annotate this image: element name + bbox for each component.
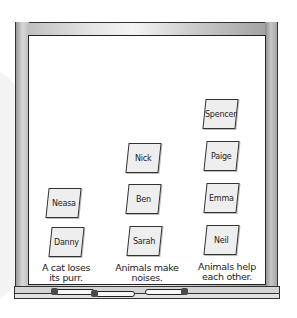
note-label: Neasa bbox=[52, 199, 76, 208]
sticky-note-paige[interactable]: Paige bbox=[203, 141, 239, 171]
column-label-cat-loses-purr: A cat loses its purr. bbox=[26, 263, 106, 283]
note-label: Spencer bbox=[205, 110, 236, 119]
note-label: Danny bbox=[54, 238, 79, 247]
note-label: Paige bbox=[211, 152, 232, 161]
column-label-animals-make-noises: Animals make noises. bbox=[107, 263, 187, 283]
column-label-animals-help-each-other: Animals help each other. bbox=[187, 262, 267, 282]
marker-cap-icon bbox=[51, 288, 58, 295]
marker-cap-icon bbox=[181, 288, 188, 295]
note-label: Emma bbox=[209, 194, 234, 203]
note-label: Sarah bbox=[133, 237, 155, 246]
sticky-note-danny[interactable]: Danny bbox=[48, 227, 84, 257]
note-label: Neil bbox=[214, 236, 229, 245]
sticky-note-sarah[interactable]: Sarah bbox=[126, 226, 162, 256]
marker-2[interactable] bbox=[95, 291, 135, 297]
marker-1[interactable] bbox=[55, 289, 95, 295]
label-line-2: its purr. bbox=[26, 273, 106, 283]
label-line-2: noises. bbox=[107, 273, 187, 283]
note-label: Ben bbox=[136, 195, 151, 204]
label-line-2: each other. bbox=[187, 272, 267, 282]
marker-cap-icon bbox=[91, 290, 98, 297]
marker-3[interactable] bbox=[145, 289, 185, 295]
whiteboard-frame-left bbox=[15, 22, 29, 290]
sticky-note-ben[interactable]: Ben bbox=[125, 184, 161, 214]
note-label: Nick bbox=[135, 154, 151, 163]
sticky-note-neasa[interactable]: Neasa bbox=[45, 188, 81, 218]
sticky-note-spencer[interactable]: Spencer bbox=[202, 99, 238, 129]
whiteboard-frame-right bbox=[265, 22, 278, 290]
sticky-note-nick[interactable]: Nick bbox=[125, 143, 161, 173]
sticky-note-emma[interactable]: Emma bbox=[203, 183, 239, 213]
sticky-note-neil[interactable]: Neil bbox=[203, 225, 239, 255]
